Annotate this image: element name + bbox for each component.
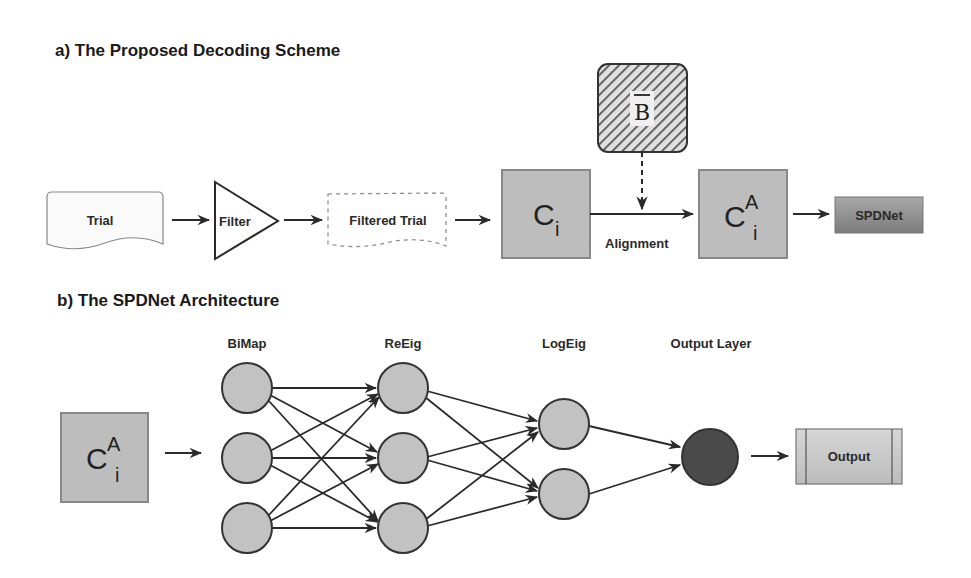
filtered-trial-label: Filtered Trial (349, 213, 426, 228)
logeig-node (539, 469, 589, 519)
covariance-sub: i (555, 218, 559, 240)
covariance-base: C (533, 198, 555, 231)
aligned-covariance-node: C A i (699, 170, 787, 258)
bimap-layer (222, 363, 272, 553)
input-base: C (86, 442, 108, 475)
input-sup: A (107, 433, 121, 455)
alignment-label: Alignment (605, 236, 669, 251)
covariance-node: C i (502, 170, 590, 258)
decoding-diagram: a) The Proposed Decoding Scheme Trial Fi… (0, 0, 971, 578)
section-b-title: b) The SPDNet Architecture (57, 291, 279, 310)
reeig-node (378, 503, 428, 553)
layer-label-logeig: LogEig (542, 336, 586, 351)
reeig-node (378, 363, 428, 413)
layer-label-reeig: ReEig (385, 336, 422, 351)
edges-bimap-reeig (268, 388, 379, 528)
aligned-covariance-base: C (724, 200, 746, 233)
reeig-node (378, 433, 428, 483)
input-sub: i (115, 464, 119, 486)
reference-label: B (634, 100, 650, 125)
filter-label: Filter (219, 214, 251, 229)
reference-mean-node: B (598, 64, 687, 152)
section-a-title: a) The Proposed Decoding Scheme (55, 41, 340, 60)
bimap-node (222, 503, 272, 553)
bimap-node (222, 433, 272, 483)
input-aligned-covariance: C A i (61, 413, 148, 502)
aligned-covariance-sup: A (745, 191, 759, 213)
edges-logeig-output (589, 426, 680, 494)
layer-label-bimap: BiMap (228, 336, 267, 351)
logeig-node (539, 399, 589, 449)
logeig-layer (539, 399, 589, 519)
filter-node: Filter (215, 182, 278, 259)
edges-reeig-logeig (425, 391, 538, 526)
bimap-node (222, 363, 272, 413)
output-label: Output (828, 449, 871, 464)
trial-label: Trial (87, 213, 114, 228)
output-layer-node (682, 429, 738, 485)
reeig-layer (378, 363, 428, 553)
layer-label-output: Output Layer (671, 336, 752, 351)
filtered-trial-node: Filtered Trial (328, 193, 446, 247)
spdnet-node: SPDNet (835, 197, 923, 233)
trial-node: Trial (47, 192, 163, 249)
spdnet-label: SPDNet (855, 208, 903, 223)
output-node: Output (796, 429, 902, 484)
aligned-covariance-sub: i (753, 222, 757, 244)
